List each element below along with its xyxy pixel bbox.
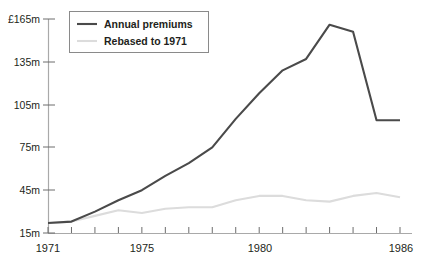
- x-tick-label-1975: 1975: [130, 242, 154, 254]
- series-line-annual-premiums: [48, 25, 400, 223]
- line-chart: £165m 135m 105m 75m 45m 15m 1971 1975 19…: [0, 0, 426, 264]
- y-tick-label-75: 75m: [20, 141, 41, 153]
- y-tick-label-135: 135m: [14, 56, 41, 68]
- x-axis-ticks: [48, 227, 400, 233]
- y-tick-label-105: 105m: [14, 99, 41, 111]
- legend-label-0: Annual premiums: [104, 18, 193, 30]
- x-tick-label-1980: 1980: [248, 242, 272, 254]
- legend-label-1: Rebased to 1971: [104, 35, 187, 47]
- chart-canvas: £165m 135m 105m 75m 45m 15m 1971 1975 19…: [0, 0, 426, 264]
- y-tick-label-45: 45m: [20, 184, 41, 196]
- legend: Annual premiums Rebased to 1971: [70, 12, 209, 53]
- x-tick-label-1986: 1986: [389, 242, 413, 254]
- y-tick-label-165: £165m: [8, 13, 40, 25]
- y-tick-label-15: 15m: [20, 227, 41, 239]
- x-tick-label-1971: 1971: [36, 242, 60, 254]
